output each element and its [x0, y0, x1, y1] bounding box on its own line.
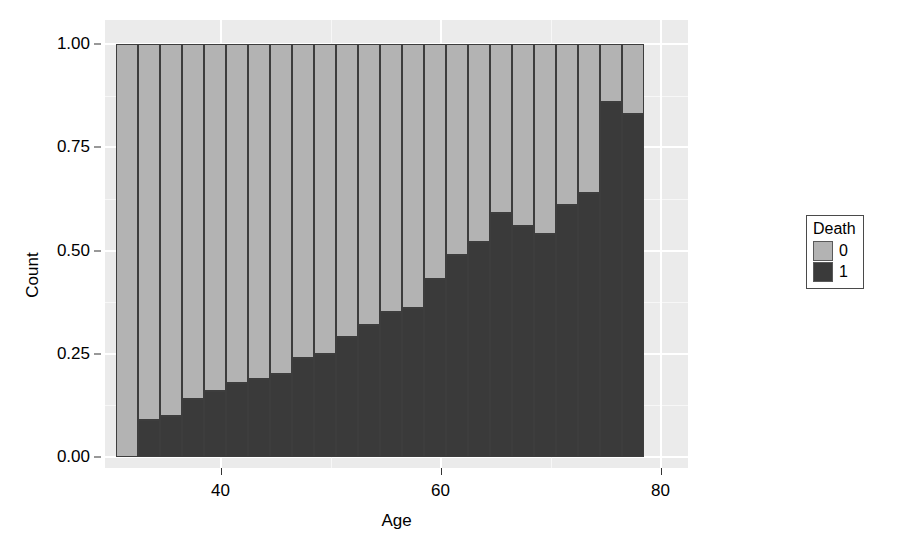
y-axis-tick-label: 1.00: [38, 34, 90, 54]
bar-segment-death-1: [468, 242, 490, 457]
bar-stack: [512, 44, 534, 457]
bar-stack: [292, 44, 314, 457]
bar-segment-death-1: [446, 255, 468, 457]
bar-stack: [556, 44, 578, 457]
y-axis-tick-label: 0.75: [38, 137, 90, 157]
x-axis-tick-mark: [441, 468, 442, 475]
bar-segment-death-1: [380, 312, 402, 457]
y-axis-tick-mark: [94, 353, 101, 354]
bar-segment-death-0: [116, 44, 138, 457]
bar-segment-death-1: [292, 358, 314, 457]
bar-stack: [314, 44, 336, 457]
legend-color-swatch: [813, 241, 833, 261]
bar-stack: [468, 44, 490, 457]
bar-segment-death-0: [556, 44, 578, 205]
x-axis-tick-label: 40: [191, 481, 251, 501]
y-axis-tick-mark: [94, 44, 101, 45]
bar-stack: [248, 44, 270, 457]
bar-segment-death-1: [534, 234, 556, 457]
plot-panel: [105, 20, 688, 468]
bar-stack: [226, 44, 248, 457]
bar-segment-death-0: [182, 44, 204, 399]
bar-stack: [358, 44, 380, 457]
bar-stack: [446, 44, 468, 457]
legend-color-swatch: [813, 262, 833, 282]
bar-segment-death-0: [358, 44, 380, 325]
y-axis-tick-mark: [94, 457, 101, 458]
bar-segment-death-1: [402, 308, 424, 457]
bar-stack: [182, 44, 204, 457]
bar-segment-death-0: [578, 44, 600, 193]
bar-segment-death-1: [160, 416, 182, 457]
bar-stack: [600, 44, 622, 457]
legend-title: Death: [813, 221, 856, 238]
bar-segment-death-1: [204, 391, 226, 457]
y-axis-tick-label: 0.50: [38, 241, 90, 261]
bar-segment-death-0: [336, 44, 358, 337]
bar-segment-death-0: [314, 44, 336, 354]
bar-stack: [424, 44, 446, 457]
bar-segment-death-1: [424, 279, 446, 457]
y-axis-tick-labels: 0.000.250.500.751.00: [38, 0, 90, 549]
bar-segment-death-1: [556, 205, 578, 457]
bar-stack: [116, 44, 138, 457]
bar-segment-death-1: [248, 379, 270, 457]
bar-stack: [270, 44, 292, 457]
bar-segment-death-1: [270, 374, 292, 457]
x-axis-title: Age: [105, 511, 688, 531]
y-axis-tick-label: 0.25: [38, 344, 90, 364]
bar-segment-death-1: [490, 213, 512, 457]
bar-segment-death-1: [358, 325, 380, 457]
bar-segment-death-1: [600, 102, 622, 457]
bar-segment-death-1: [512, 226, 534, 457]
bar-segment-death-1: [182, 399, 204, 457]
bar-segment-death-0: [600, 44, 622, 102]
legend-item[interactable]: 1: [813, 262, 856, 282]
x-axis-tick-label: 80: [631, 481, 691, 501]
y-axis-tick-mark: [94, 250, 101, 251]
bar-segment-death-0: [248, 44, 270, 379]
bar-segment-death-1: [336, 337, 358, 457]
chart-figure: Count 0.000.250.500.751.00 406080 Age De…: [0, 0, 900, 549]
legend-items: 01: [813, 241, 856, 282]
y-axis-tick-mark: [94, 147, 101, 148]
bar-segment-death-0: [204, 44, 226, 391]
bar-stack: [336, 44, 358, 457]
bar-segment-death-0: [512, 44, 534, 226]
bar-segment-death-0: [468, 44, 490, 242]
bar-segment-death-1: [622, 114, 644, 457]
legend-item-label: 0: [839, 243, 848, 259]
bar-stack: [622, 44, 644, 457]
bars-layer: [105, 20, 688, 468]
bar-stack: [534, 44, 556, 457]
bar-segment-death-1: [226, 383, 248, 457]
bar-stack: [138, 44, 160, 457]
bar-segment-death-1: [314, 354, 336, 457]
legend-item-label: 1: [839, 264, 848, 280]
x-axis-tick-mark: [661, 468, 662, 475]
y-axis-tick-label: 0.00: [38, 447, 90, 467]
bar-segment-death-1: [138, 420, 160, 457]
bar-segment-death-0: [534, 44, 556, 234]
x-axis-tick-label: 60: [411, 481, 471, 501]
bar-segment-death-0: [424, 44, 446, 279]
bar-stack: [490, 44, 512, 457]
bar-segment-death-0: [292, 44, 314, 358]
bar-segment-death-0: [402, 44, 424, 308]
bar-stack: [380, 44, 402, 457]
bar-stack: [204, 44, 226, 457]
bar-segment-death-1: [578, 193, 600, 457]
bar-segment-death-0: [380, 44, 402, 312]
bar-segment-death-0: [490, 44, 512, 213]
legend-item[interactable]: 0: [813, 241, 856, 261]
bar-segment-death-0: [270, 44, 292, 374]
bar-segment-death-0: [160, 44, 182, 416]
bar-stack: [160, 44, 182, 457]
bar-segment-death-0: [622, 44, 644, 114]
bar-stack: [578, 44, 600, 457]
x-axis-tick-mark: [221, 468, 222, 475]
bar-stack: [402, 44, 424, 457]
bar-segment-death-0: [226, 44, 248, 383]
legend: Death 01: [806, 215, 864, 289]
bar-segment-death-0: [446, 44, 468, 255]
